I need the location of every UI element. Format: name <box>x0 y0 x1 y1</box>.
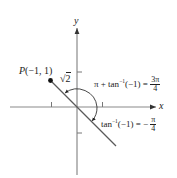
sqrt-value: 2 <box>66 72 71 84</box>
angle-small-label: tan−1(−1) = − π 4 <box>101 116 156 133</box>
point-p-label: P(−1, 1) <box>19 66 52 76</box>
x-axis-label: x <box>159 101 163 111</box>
radius-label: √2 <box>60 74 71 84</box>
angle-small-lhs: tan <box>101 119 112 129</box>
angle-small-arg: (−1) = − <box>118 119 148 129</box>
point-coords: (−1, 1) <box>25 65 52 76</box>
angle-large-arg: (−1) = <box>125 79 148 89</box>
angle-large-lhs: π + tan <box>94 79 119 89</box>
angle-large-label: π + tan−1(−1) = 3π 4 <box>94 76 160 93</box>
angle-large-den: 4 <box>150 85 160 93</box>
angle-arc-large <box>65 89 97 107</box>
y-axis-label: y <box>74 16 78 26</box>
point-p <box>48 78 53 83</box>
angle-arc-small <box>92 107 97 121</box>
angle-large-fraction: 3π 4 <box>150 76 160 93</box>
sqrt-symbol: √ <box>60 73 66 84</box>
angle-small-fraction: π 4 <box>150 116 156 133</box>
angle-small-den: 4 <box>150 125 156 133</box>
